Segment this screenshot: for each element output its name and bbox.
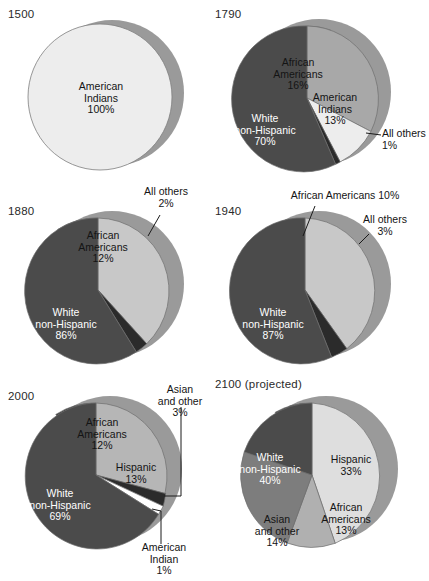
label-line-2: non-Hispanic (29, 499, 90, 511)
label-american-indian: American Indian 1% (126, 542, 202, 577)
label-line-2: and other (255, 525, 299, 537)
chart-1790: 1790 African Americans 16% American Indi… (215, 0, 429, 190)
label-line-1: Hispanic (331, 453, 371, 465)
pie-chart-grid: 1500 American Indians 100% 1790 (0, 0, 429, 581)
label-asian-and-other: Asian and other 14% (241, 514, 313, 549)
label-line-3: 87% (262, 329, 283, 341)
label-line-1: Hispanic (116, 461, 156, 473)
label-line-1: African Americans 10% (291, 189, 400, 201)
label-line-3: 40% (259, 474, 280, 486)
label-line-1: American (313, 91, 357, 103)
label-line-2: Americans (321, 513, 371, 525)
label-line-2: Americans (273, 68, 323, 80)
label-line-2: Indians (318, 103, 352, 115)
label-line-2: Indian (150, 553, 179, 565)
chart-1790-year-label: 1790 (215, 8, 241, 20)
chart-1880: 1880 All others 2% African Americans 12%… (0, 188, 215, 378)
label-line-2: Americans (78, 241, 128, 253)
label-white-non-hispanic: White non-Hispanic 40% (224, 452, 316, 487)
label-line-3: 12% (91, 439, 112, 451)
label-white-non-hispanic: White non-Hispanic 86% (20, 307, 112, 342)
label-line-1: White (257, 451, 284, 463)
label-white-non-hispanic: White non-Hispanic 87% (227, 307, 319, 342)
label-line-1: All others (382, 127, 426, 139)
label-line-1: African (87, 229, 120, 241)
label-line-3: 13% (324, 114, 345, 126)
label-asian-and-other: Asian and other 3% (144, 384, 216, 419)
label-hispanic: Hispanic 13% (102, 462, 170, 485)
label-line-1: All others (144, 185, 188, 197)
label-line-1: White (53, 306, 80, 318)
label-line-3: 16% (287, 79, 308, 91)
chart-1940-year-label: 1940 (215, 205, 241, 217)
chart-2100-year-label: 2100 (projected) (215, 378, 302, 390)
label-line-1: All others (363, 213, 407, 225)
label-african-americans: African Americans 12% (65, 230, 141, 265)
label-white-non-hispanic: White non-Hispanic 69% (14, 488, 106, 523)
label-line-2: 3% (377, 225, 392, 237)
label-line-2: Americans (77, 428, 127, 440)
label-line-3: 69% (49, 510, 70, 522)
chart-1500: 1500 American Indians 100% (0, 0, 215, 190)
label-line-1: White (260, 306, 287, 318)
label-line-2: 1% (382, 139, 397, 151)
label-line-3: 86% (55, 329, 76, 341)
label-line-2: non-Hispanic (239, 463, 300, 475)
label-line-3: 70% (254, 135, 275, 147)
label-american-indians: American Indians 13% (297, 92, 373, 127)
label-line-2: non-Hispanic (242, 318, 303, 330)
label-line-3: 13% (335, 524, 356, 536)
label-line-3: 14% (266, 536, 287, 548)
label-line-2: Indians (84, 92, 118, 104)
label-line-3: 100% (88, 103, 115, 115)
chart-2000-year-label: 2000 (8, 390, 34, 402)
label-all-others: All others 1% (382, 128, 429, 151)
chart-1880-year-label: 1880 (8, 205, 34, 217)
label-line-1: Asian (264, 513, 290, 525)
label-line-3: 1% (156, 564, 171, 576)
chart-1940: 1940 African Americans 10% All others 3%… (215, 188, 429, 378)
label-line-2: non-Hispanic (234, 124, 295, 136)
label-line-2: 2% (158, 197, 173, 209)
label-all-others: All others 2% (128, 186, 204, 209)
label-american-indians: American Indians 100% (62, 81, 140, 116)
label-line-1: White (252, 112, 279, 124)
label-african-americans: African Americans 12% (64, 417, 140, 452)
chart-2000: 2000 Asian and other 3% African American… (0, 376, 215, 581)
label-line-3: 12% (92, 252, 113, 264)
label-line-1: American (79, 80, 123, 92)
chart-1500-year-label: 1500 (8, 8, 34, 20)
label-line-1: African (282, 56, 315, 68)
label-line-2: non-Hispanic (35, 318, 96, 330)
label-line-1: Asian (167, 383, 193, 395)
label-line-1: African (86, 416, 119, 428)
label-african-americans: African Americans 10% (265, 190, 425, 202)
label-hispanic: Hispanic 33% (314, 454, 388, 477)
label-line-3: 3% (172, 406, 187, 418)
pie-slices (229, 218, 374, 364)
label-african-americans: African Americans 13% (307, 502, 385, 537)
label-all-others: All others 3% (347, 214, 423, 237)
label-line-2: 13% (125, 473, 146, 485)
label-line-1: White (47, 487, 74, 499)
label-line-2: and other (158, 395, 202, 407)
label-african-americans: African Americans 16% (260, 57, 336, 92)
label-line-1: African (330, 501, 363, 513)
label-line-1: American (142, 541, 186, 553)
chart-2100: 2100 (projected) White non-Hispanic 40% … (215, 376, 429, 581)
label-white-non-hispanic: White non-Hispanic 70% (225, 113, 305, 148)
label-line-2: 33% (340, 465, 361, 477)
